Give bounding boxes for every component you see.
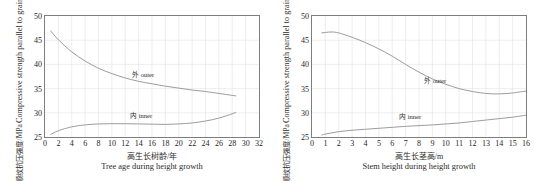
x-tick-label: 16 bbox=[148, 139, 156, 148]
x-tick-label: 15 bbox=[509, 139, 517, 148]
x-axis-tick-labels-left: 02468101214161820222426283032 bbox=[44, 139, 260, 151]
x-tick-label: 26 bbox=[215, 139, 223, 148]
x-tick-label: 0 bbox=[43, 139, 47, 148]
x-tick-label: 10 bbox=[108, 139, 116, 148]
y-tick-label: 30 bbox=[34, 108, 42, 117]
y-tick-label: 50 bbox=[34, 12, 42, 21]
series-label-outer-right: 外 outer bbox=[424, 75, 446, 85]
x-tick-label: 32 bbox=[255, 139, 263, 148]
x-tick-label: 0 bbox=[310, 139, 314, 148]
x-axis-label-english-left: Tree age during height growth bbox=[34, 162, 270, 173]
x-tick-label: 9 bbox=[430, 139, 434, 148]
x-tick-label: 28 bbox=[228, 139, 236, 148]
y-tick-label: 40 bbox=[34, 60, 42, 69]
x-tick-label: 16 bbox=[522, 139, 530, 148]
y-tick-label: 35 bbox=[301, 84, 309, 93]
x-tick-label: 6 bbox=[390, 139, 394, 148]
y-tick-label: 45 bbox=[301, 36, 309, 45]
x-axis-label-english-right: Stem height during height growth bbox=[301, 162, 534, 173]
x-tick-label: 1 bbox=[323, 139, 327, 148]
x-tick-label: 22 bbox=[188, 139, 196, 148]
x-tick-label: 8 bbox=[97, 139, 101, 148]
series-label-outer-left: 外 outer bbox=[132, 69, 154, 79]
x-tick-label: 24 bbox=[202, 139, 210, 148]
x-tick-label: 20 bbox=[175, 139, 183, 148]
x-tick-label: 8 bbox=[417, 139, 421, 148]
y-tick-label: 25 bbox=[34, 133, 42, 142]
series-label-inner-right: 内 inner bbox=[399, 111, 421, 121]
y-tick-label: 50 bbox=[301, 12, 309, 21]
x-tick-label: 5 bbox=[377, 139, 381, 148]
x-tick-label: 13 bbox=[482, 139, 490, 148]
x-axis-caption-right: 高生长茎高/m Stem height during height growth bbox=[301, 152, 534, 173]
x-axis-tick-labels-right: 012345678910111213141516 bbox=[311, 139, 527, 151]
chart-panel-left: 顺纹抗压强度/MPa Compressive strength parallel… bbox=[0, 0, 267, 181]
x-tick-label: 10 bbox=[442, 139, 450, 148]
y-tick-label: 30 bbox=[301, 108, 309, 117]
y-tick-label: 45 bbox=[34, 36, 42, 45]
x-tick-label: 2 bbox=[56, 139, 60, 148]
x-tick-label: 30 bbox=[242, 139, 250, 148]
x-tick-label: 3 bbox=[350, 139, 354, 148]
x-tick-label: 11 bbox=[455, 139, 463, 148]
x-tick-label: 14 bbox=[495, 139, 503, 148]
x-axis-caption-left: 高生长树龄/年 Tree age during height growth bbox=[34, 152, 270, 173]
series-label-inner-left: 内 inner bbox=[130, 110, 152, 120]
y-axis-tick-labels-right: 253035404550 bbox=[285, 15, 309, 138]
y-axis-tick-labels-left: 253035404550 bbox=[18, 15, 42, 138]
x-axis-label-chinese-left: 高生长树龄/年 bbox=[34, 152, 270, 162]
x-tick-label: 2 bbox=[337, 139, 341, 148]
x-tick-label: 4 bbox=[364, 139, 368, 148]
x-tick-label: 4 bbox=[70, 139, 74, 148]
plot-area-wrapper-left: 外 outer 内 inner bbox=[44, 15, 260, 138]
two-panel-line-chart-figure: 顺纹抗压强度/MPa Compressive strength parallel… bbox=[0, 0, 534, 181]
chart-panel-right: 顺纹抗压强度/MPa Compressive strength parallel… bbox=[267, 0, 534, 181]
x-tick-label: 12 bbox=[121, 139, 129, 148]
x-axis-label-chinese-right: 高生长茎高/m bbox=[301, 152, 534, 162]
plot-area-wrapper-right: 外 outer 内 inner bbox=[311, 15, 527, 138]
x-tick-label: 18 bbox=[161, 139, 169, 148]
y-tick-label: 25 bbox=[301, 133, 309, 142]
y-tick-label: 35 bbox=[34, 84, 42, 93]
x-tick-label: 6 bbox=[83, 139, 87, 148]
x-tick-label: 12 bbox=[469, 139, 477, 148]
x-tick-label: 14 bbox=[135, 139, 143, 148]
y-tick-label: 40 bbox=[301, 60, 309, 69]
x-tick-label: 7 bbox=[404, 139, 408, 148]
